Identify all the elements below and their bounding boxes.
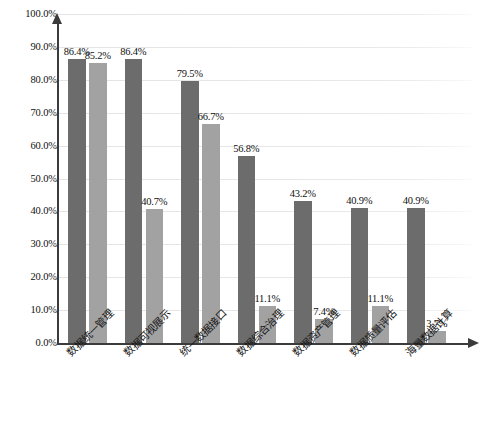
bar-value-label: 40.9%	[339, 195, 379, 206]
bar	[351, 208, 369, 343]
y-axis-tick-label: 70.0%	[5, 108, 57, 119]
bar	[294, 201, 312, 343]
bar	[238, 156, 256, 343]
bars-layer: 86.4%85.2%86.4%40.7%79.5%66.7%56.8%11.1%…	[57, 14, 478, 343]
x-axis-category-labels: 数据统一管理数据可视展示统一数据接口数据综合治理数据资产管理数据质量评估海量数据…	[0, 345, 497, 405]
bar-value-label: 40.9%	[396, 195, 436, 206]
bar	[89, 63, 107, 343]
bar-value-label: 85.2%	[78, 50, 118, 61]
y-axis-tick-label: 30.0%	[5, 239, 57, 250]
bar-value-label: 66.7%	[191, 111, 231, 122]
bar-value-label: 40.7%	[134, 196, 174, 207]
y-axis-tick-label: 40.0%	[5, 206, 57, 217]
y-axis-tick-label: 100.0%	[5, 9, 57, 20]
y-axis-tick-label: 20.0%	[5, 272, 57, 283]
bar	[68, 59, 86, 343]
y-axis-tick-label: 80.0%	[5, 75, 57, 86]
bar	[202, 124, 220, 343]
bar-value-label: 79.5%	[170, 68, 210, 79]
bar-chart: 100.0%90.0%80.0%70.0%60.0%50.0%40.0%30.0…	[0, 0, 497, 423]
bar-value-label: 11.1%	[247, 293, 287, 304]
y-axis-tick-label: 60.0%	[5, 141, 57, 152]
figure-caption	[0, 411, 497, 423]
bar-value-label: 43.2%	[283, 188, 323, 199]
bar-value-label: 86.4%	[113, 46, 153, 57]
y-axis-tick-label: 50.0%	[5, 174, 57, 185]
bar-value-label: 11.1%	[360, 293, 400, 304]
bar-value-label: 56.8%	[226, 143, 266, 154]
y-axis-tick-label: 90.0%	[5, 42, 57, 53]
y-axis-tick-label: 10.0%	[5, 305, 57, 316]
